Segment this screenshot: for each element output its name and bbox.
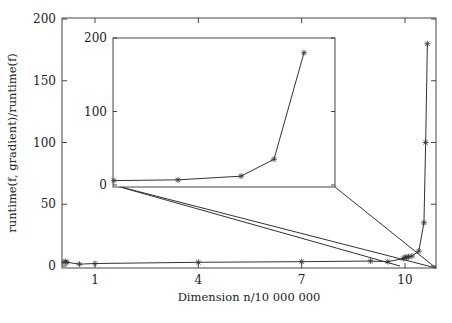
y-tick-label: 200	[33, 12, 56, 26]
x-tick-label: 7	[298, 273, 306, 287]
inset-y-tick-label: 0	[99, 178, 107, 192]
y-axis-label: runtime(f, gradient)/runtime(f)	[5, 53, 19, 232]
y-tick-label: 100	[33, 136, 56, 150]
y-tick-label: 0	[48, 259, 56, 273]
x-tick-label: 1	[91, 273, 99, 287]
inset-plot: 0100200	[84, 31, 335, 192]
x-tick-label: 4	[195, 273, 203, 287]
y-tick-label: 50	[41, 197, 56, 211]
y-tick-label: 150	[33, 74, 56, 88]
chart-figure: 050100150200 14710 runtime(f, gradient)/…	[0, 0, 452, 323]
inset-connector-lines	[113, 185, 436, 268]
x-tick-label: 10	[397, 273, 412, 287]
inset-y-tick-label: 100	[84, 105, 107, 119]
inset-y-tick-label: 200	[84, 31, 107, 45]
x-axis-label: Dimension n/10 000 000	[178, 290, 321, 304]
